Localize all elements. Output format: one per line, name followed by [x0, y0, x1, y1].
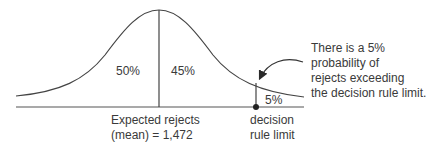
decision-limit-dot	[253, 104, 259, 110]
annotation-line2: probability of	[311, 56, 379, 70]
region-label-45: 45%	[171, 64, 195, 78]
mean-label-line2: (mean) = 1,472	[111, 128, 193, 142]
annotation-arrow	[260, 60, 303, 78]
mean-label-line1: Expected rejects	[111, 113, 200, 127]
region-label-5: 5%	[265, 93, 282, 107]
annotation-line3: rejects exceeding	[311, 71, 404, 85]
region-label-50: 50%	[116, 64, 140, 78]
limit-label-line2: rule limit	[250, 128, 295, 142]
limit-label-line1: decision	[250, 113, 294, 127]
annotation-line1: There is a 5%	[311, 41, 385, 55]
annotation-line4: the decision rule limit.	[311, 86, 426, 100]
bell-curve	[16, 10, 304, 97]
